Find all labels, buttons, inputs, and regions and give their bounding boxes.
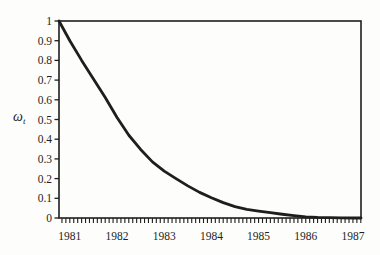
- y-axis-tick-label: 0: [46, 212, 52, 224]
- chart-canvas: 00.10.20.30.40.50.60.70.80.9119811982198…: [0, 0, 380, 255]
- y-axis-tick-label: 0.1: [38, 192, 53, 204]
- y-axis-tick-label: 1: [46, 15, 52, 27]
- y-axis-tick-label: 0.3: [38, 153, 53, 165]
- x-axis-tick-label: 1985: [247, 230, 270, 242]
- decay-weight-chart-figure: 00.10.20.30.40.50.60.70.80.9119811982198…: [0, 0, 380, 255]
- x-axis-tick-label: 1983: [153, 230, 176, 242]
- y-axis-tick-label: 0.7: [38, 74, 53, 86]
- y-axis-tick-label: 0.8: [38, 54, 53, 66]
- y-axis-tick-label: 0.6: [38, 94, 53, 106]
- y-axis-tick-label: 0.5: [38, 114, 53, 126]
- x-axis-tick-label: 1986: [294, 230, 317, 242]
- x-axis-tick-label: 1984: [200, 230, 223, 242]
- y-axis-title: ωt: [13, 109, 26, 126]
- plot-frame: [59, 21, 361, 218]
- x-axis-tick-label: 1982: [106, 230, 129, 242]
- y-axis-tick-label: 0.2: [38, 173, 53, 185]
- y-axis-tick-label: 0.4: [38, 133, 53, 145]
- omega-weight-curve: [59, 21, 361, 218]
- x-axis-tick-label: 1987: [341, 230, 364, 242]
- x-axis-tick-label: 1981: [58, 230, 81, 242]
- y-axis-tick-label: 0.9: [38, 35, 53, 47]
